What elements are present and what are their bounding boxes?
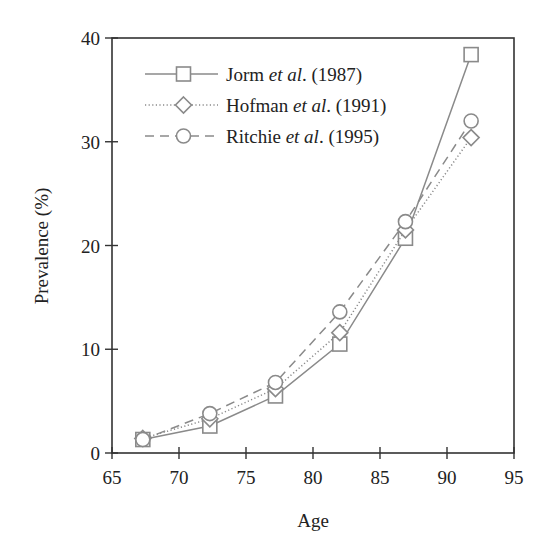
series-ritchie <box>136 114 478 447</box>
x-tick-label: 75 <box>237 467 256 488</box>
series-line <box>143 121 471 440</box>
square-marker-icon <box>464 48 478 62</box>
diamond-marker-icon <box>463 130 479 146</box>
y-tick-label: 10 <box>81 339 100 360</box>
x-tick-label: 85 <box>371 467 390 488</box>
x-tick-label: 65 <box>103 467 122 488</box>
diamond-marker-icon <box>176 97 192 113</box>
x-tick-label: 95 <box>505 467 524 488</box>
legend-label: Ritchie et al. (1995) <box>226 126 379 148</box>
legend-item-ritchie: Ritchie et al. (1995) <box>145 126 379 148</box>
circle-marker-icon <box>136 433 150 447</box>
prevalence-chart: 65707580859095 010203040 Jorm et al. (19… <box>0 0 550 557</box>
circle-marker-icon <box>177 129 191 143</box>
y-tick-label: 30 <box>81 132 100 153</box>
legend-label: Hofman et al. (1991) <box>226 95 386 117</box>
legend-label: Jorm et al. (1987) <box>226 64 362 86</box>
series-line <box>143 138 471 439</box>
circle-marker-icon <box>398 215 412 229</box>
square-marker-icon <box>177 67 191 81</box>
x-tick-label: 90 <box>438 467 457 488</box>
legend-item-jorm: Jorm et al. (1987) <box>145 64 362 86</box>
circle-marker-icon <box>333 305 347 319</box>
x-tick-label: 70 <box>170 467 189 488</box>
y-tick-label: 20 <box>81 236 100 257</box>
circle-marker-icon <box>203 407 217 421</box>
x-axis-label: Age <box>297 510 329 531</box>
x-tick-label: 80 <box>304 467 323 488</box>
circle-marker-icon <box>464 114 478 128</box>
y-tick-label: 0 <box>91 443 101 464</box>
legend: Jorm et al. (1987)Hofman et al. (1991)Ri… <box>145 64 386 148</box>
circle-marker-icon <box>268 375 282 389</box>
y-tick-label: 40 <box>81 28 100 49</box>
y-axis-label: Prevalence (%) <box>31 188 53 305</box>
legend-item-hofman: Hofman et al. (1991) <box>145 95 386 117</box>
